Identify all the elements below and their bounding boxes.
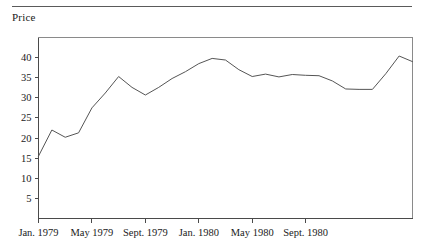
price-line-path xyxy=(39,56,413,156)
y-tick-label: 35 xyxy=(21,72,32,83)
x-tick-label: May 1979 xyxy=(70,227,113,238)
price-series xyxy=(39,56,413,156)
x-tick-label: Jan. 1979 xyxy=(18,227,58,238)
plot-area: 510152025303540 Jan. 1979May 1979Sept. 1… xyxy=(0,0,424,251)
y-tick-label: 40 xyxy=(21,52,32,63)
y-tick-label: 10 xyxy=(21,173,32,184)
y-tick-label: 25 xyxy=(21,112,32,123)
price-line-chart-figure: Price 510152025303540 Jan. 1979May 1979S… xyxy=(0,0,424,251)
x-tick-label: Sept. 1980 xyxy=(283,227,328,238)
y-axis-ticks: 510152025303540 xyxy=(21,38,39,219)
x-axis-ticks: Jan. 1979May 1979Sept. 1979Jan. 1980May … xyxy=(18,219,412,238)
x-tick-label: May 1980 xyxy=(231,227,274,238)
x-tick-label: Jan. 1980 xyxy=(179,227,219,238)
y-tick-label: 5 xyxy=(26,193,31,204)
y-tick-label: 30 xyxy=(21,92,32,103)
plot-frame xyxy=(39,38,413,219)
x-tick-label: Sept. 1979 xyxy=(123,227,168,238)
y-tick-label: 20 xyxy=(21,133,32,144)
y-tick-label: 15 xyxy=(21,153,32,164)
